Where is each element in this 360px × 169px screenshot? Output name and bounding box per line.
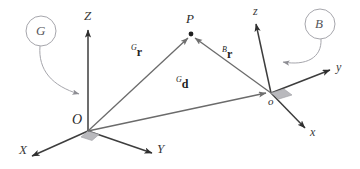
vector-Gd-line: [88, 93, 266, 131]
frame-G-leader: [40, 46, 79, 94]
vector-frames-diagram: Z X Y z y x P O o G B Gr Br Gd: [0, 0, 360, 169]
origin-label-O: O: [72, 113, 82, 127]
axis-x-line: [271, 93, 305, 128]
point-P-dot: [189, 32, 194, 37]
axis-label-Y: Y: [157, 142, 164, 155]
axis-label-Z: Z: [84, 9, 91, 22]
body-frame-axes: [256, 24, 330, 128]
vector-label-Br: Br: [222, 45, 232, 61]
vector-Br-symbol: r: [227, 47, 232, 61]
frame-label-B: B: [315, 17, 323, 30]
axis-label-y: y: [336, 61, 341, 73]
origin-label-o: o: [268, 96, 274, 107]
right-angle-marker-o: [271, 89, 292, 99]
axis-X-line: [32, 131, 88, 156]
frame-B-leader: [283, 39, 321, 63]
vector-Gr-symbol: r: [137, 45, 142, 59]
axis-label-X: X: [19, 143, 27, 156]
point-label-P: P: [186, 12, 194, 25]
axis-z-line: [256, 24, 271, 93]
vector-label-Gr: Gr: [131, 43, 142, 59]
vector-label-Gd: Gd: [176, 75, 188, 91]
frame-label-G: G: [36, 24, 45, 37]
vector-Br-line: [195, 38, 271, 93]
axis-label-x: x: [310, 126, 315, 138]
axis-y-line: [271, 70, 330, 93]
axis-label-z: z: [253, 5, 258, 17]
vector-Gd-symbol: d: [182, 77, 189, 91]
